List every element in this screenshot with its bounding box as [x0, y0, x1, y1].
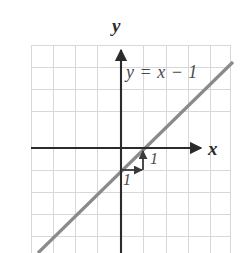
- line-graph: [38, 62, 233, 253]
- coordinate-plane-svg: [0, 0, 245, 253]
- y-axis-label: y: [112, 16, 120, 35]
- x-axis-label: x: [208, 139, 218, 158]
- rise-label: 1: [150, 151, 158, 167]
- run-label: 1: [123, 172, 131, 188]
- equation-label: y = x − 1: [126, 63, 198, 81]
- graph-figure: y x y = x − 1 1 1: [0, 0, 245, 253]
